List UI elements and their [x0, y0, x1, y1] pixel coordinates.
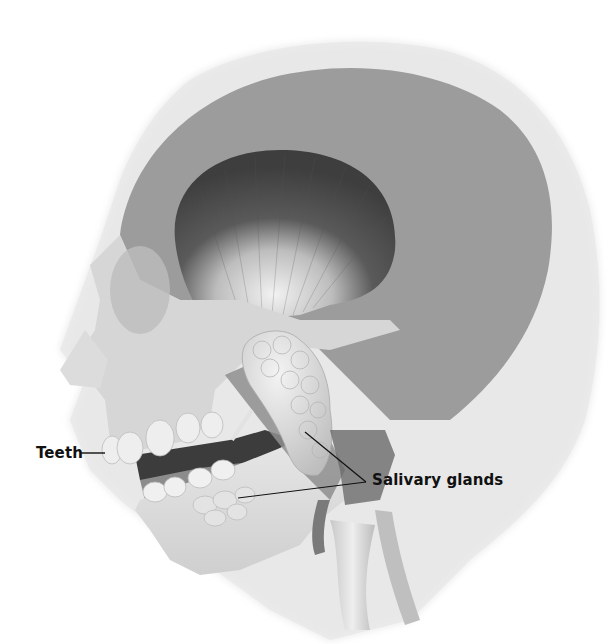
anatomy-illustration: [0, 0, 611, 644]
teeth-label: Teeth: [36, 444, 83, 462]
salivary-glands-label: Salivary glands: [372, 471, 503, 489]
eye-socket: [110, 246, 170, 334]
temporalis-muscle: [175, 150, 396, 320]
